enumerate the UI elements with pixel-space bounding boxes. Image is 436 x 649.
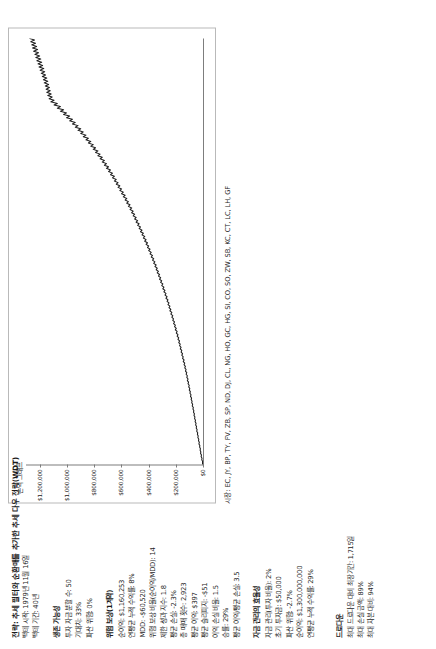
strategy-title: 전략: 추세 필터와 순환매를 추가한 추세 다우 전략(WDT) xyxy=(10,369,21,637)
stat-mdd: MDD: -$60,520 xyxy=(138,369,148,637)
stat-net-profit: 순이익: $1,160,253 xyxy=(117,369,127,637)
strategy-report: 전략: 추세 필터와 순환매를 추가한 추세 다우 전략(WDT) 백테 시작:… xyxy=(10,369,316,637)
stat-initial-capital: 초기 투자금: $50,000 xyxy=(274,369,284,637)
section-heading-drawdown: 드로다운 xyxy=(334,337,346,637)
stat-capital-splits: 투자 자금 분할 수: 50 xyxy=(64,369,74,637)
section-heading-money-management: 자금 관리의 효율성 xyxy=(251,369,264,637)
backtest-start: 백테 시작: 1979년 11월 16일 xyxy=(21,369,31,637)
stat-avg-win-avg-loss: 평균 이익/평균 손실: 3.5 xyxy=(232,369,242,637)
stat-net-profit-mm: 순이익: $1,300,000,000 xyxy=(295,369,305,637)
stat-avg-slippage: 평균 슬리피지: -$51 xyxy=(200,369,210,637)
stat-risk-reward-ratio: 위험 보상 비율(순이익/MDD): 14 xyxy=(148,369,158,637)
spacer xyxy=(95,369,100,637)
stat-max-loss-amount: 최대 손실 금액: 89% xyxy=(356,337,366,637)
stat-avg-profit: 평균 이익: $397 xyxy=(190,369,200,637)
stat-cagr: 연평균 누적 수익률: 8% xyxy=(127,369,137,637)
stat-avg-loss-pct: 평균 손실: -2.3% xyxy=(169,369,179,637)
stat-total-trades: 총 매매 횟수: 2,923 xyxy=(179,369,189,637)
report-page-rotated: 손익 그래프 $1,200,000$1,000,000$800,000$600,… xyxy=(0,0,436,649)
drawdown-block: 드로다운 최대 드로다운 대비 최장기간: 1,715일 최대 손실 금액: 8… xyxy=(330,337,377,637)
stat-cagr-mm: 연평균 누적 수익률: 29% xyxy=(306,369,316,637)
stat-win-rate: 승률: 29% xyxy=(221,369,231,637)
spacer xyxy=(42,369,47,637)
stat-longest-drawdown: 최대 드로다운 대비 최장기간: 1,715일 xyxy=(346,337,356,637)
stat-expectancy: 기대치: 33% xyxy=(74,369,84,637)
stat-max-equity-dd: 최대 자본 대비: 94% xyxy=(366,337,376,637)
stat-risk-per-trade: 자금 관리(투자 비율): 2% xyxy=(264,369,274,637)
stat-risk-of-ruin-mm: 파산 위험: -2.7% xyxy=(285,369,295,637)
backtest-duration: 백테 기간: 40년 xyxy=(31,369,41,637)
stat-profit-loss-ratio: 이익 손실 비율: 1.5 xyxy=(211,369,221,637)
section-heading-riskreward: 위험 보상(1계약) xyxy=(104,369,117,637)
report-page: 손익 그래프 $1,200,000$1,000,000$800,000$600,… xyxy=(0,0,436,649)
stat-risk-of-ruin: 파산 위험: 0% xyxy=(85,369,95,637)
spacer xyxy=(242,369,247,637)
stat-performance-index: 제한 성과 지수: 1.8 xyxy=(159,369,169,637)
section-heading-survivability: 생존 가능성 xyxy=(51,369,64,637)
